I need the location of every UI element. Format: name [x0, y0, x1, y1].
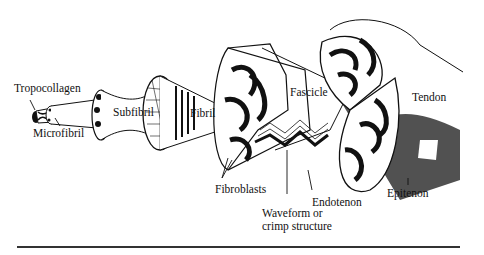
- label-epitenon: Epitenon: [387, 187, 429, 200]
- label-fibroblasts: Fibroblasts: [215, 183, 266, 196]
- tendon-structure-diagram: Tropocollagen Microfibril Subfibril Fibr…: [0, 0, 484, 255]
- label-crimp-structure: crimp structure: [262, 220, 332, 233]
- bottom-rule: [17, 246, 460, 248]
- tendon-shape: [320, 20, 463, 200]
- label-tropocollagen: Tropocollagen: [14, 82, 81, 95]
- label-endotenon: Endotenon: [312, 196, 362, 209]
- label-subfibril: Subfibril: [113, 106, 154, 119]
- label-microfibril: Microfibril: [33, 127, 84, 140]
- label-fascicle: Fascicle: [290, 86, 328, 99]
- label-tendon: Tendon: [412, 91, 446, 104]
- microfibril-shape: [46, 100, 97, 128]
- label-fibril: Fibril: [190, 107, 216, 120]
